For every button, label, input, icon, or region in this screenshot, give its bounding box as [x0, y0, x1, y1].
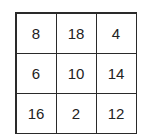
grid-cell: 2	[56, 93, 97, 134]
grid-cell: 4	[96, 13, 137, 54]
number-grid: 8 18 4 6 10 14 16 2 12	[15, 12, 137, 134]
grid-cell: 16	[16, 93, 57, 134]
grid-cell: 10	[56, 53, 97, 94]
grid-cell: 12	[96, 93, 137, 134]
grid-cell: 8	[16, 13, 57, 54]
grid-cell: 14	[96, 53, 137, 94]
grid-cell: 6	[16, 53, 57, 94]
grid-cell: 18	[56, 13, 97, 54]
